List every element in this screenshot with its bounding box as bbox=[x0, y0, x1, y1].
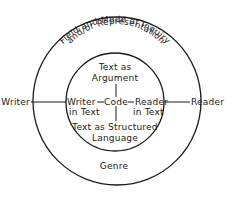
code-label: Code bbox=[104, 97, 128, 107]
reader-in-text-line2: in Text bbox=[133, 107, 164, 117]
writer-in-text-line2: in Text bbox=[69, 107, 100, 117]
reader-in-text-line1: Reader bbox=[135, 97, 168, 107]
writer-label: Writer bbox=[1, 97, 30, 107]
text-as-argument-line1: Text as bbox=[98, 62, 132, 72]
reader-label: Reader bbox=[191, 97, 224, 107]
outer-arc-label-line2: and/or Representation bbox=[65, 16, 168, 45]
concentric-circles-diagram: Field and Mode of Inquiry and/or Represe… bbox=[0, 0, 235, 197]
text-as-argument-line2: Argument bbox=[92, 73, 139, 83]
genre-label: Genre bbox=[100, 161, 129, 171]
text-as-structured-language-line2: Language bbox=[92, 133, 138, 143]
text-as-structured-language-line1: Text as Structured bbox=[71, 122, 157, 132]
diagram-canvas: Field and Mode of Inquiry and/or Represe… bbox=[0, 0, 235, 197]
writer-in-text-line1: Writer bbox=[67, 97, 96, 107]
